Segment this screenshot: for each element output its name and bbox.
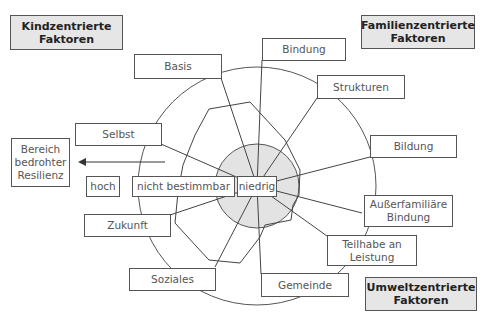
category-environment-centered: Umweltzentrierte Faktoren [365,277,477,311]
category-child-centered: Kindzentrierte Faktoren [10,15,123,50]
category-family-centered: Familienzentrierte Faktoren [361,15,475,49]
scale-hoch: hoch [86,176,120,197]
factor-teilhabe: Teilhabe an Leistung [327,235,417,266]
factor-bindung: Bindung [262,38,346,61]
factor-bildung: Bildung [370,135,457,158]
factor-gemeinde: Gemeinde [261,273,349,297]
scale-nicht-bestimmbar: nicht bestimmbar [132,176,235,197]
scale-niedrig: niedrig [237,176,277,197]
factor-strukturen: Strukturen [317,75,405,99]
factor-selbst: Selbst [75,123,162,146]
factor-basis: Basis [134,54,222,79]
zone-threatened-resilience: Bereich bedrohter Resilienz [11,138,70,187]
factor-ausserfamiliaere-bindung: Außerfamiliäre Bindung [364,195,453,227]
factor-soziales: Soziales [129,268,216,291]
factor-zukunft: Zukunft [84,214,171,237]
